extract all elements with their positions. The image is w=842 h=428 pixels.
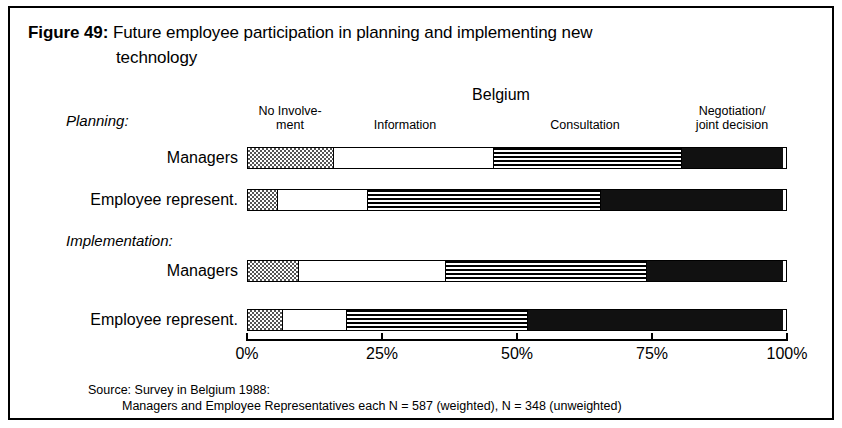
x-axis-tick-label-100%: 100% — [752, 345, 822, 363]
segment-no-involvement — [248, 261, 299, 281]
segment-negotiation — [681, 148, 783, 168]
row-label-implementation-managers: Managers — [8, 262, 238, 280]
segment-consultation — [367, 190, 601, 210]
figure-frame: Figure 49: Future employee participation… — [8, 6, 834, 420]
x-axis-tick-label-50%: 50% — [482, 345, 552, 363]
source-note-line-1: Source: Survey in Belgium 1988: — [88, 382, 622, 398]
stacked-bar-0 — [247, 147, 787, 169]
x-axis-tick-50% — [516, 333, 518, 341]
segment-information — [277, 190, 368, 210]
row-label-implementation-employee-represent: Employee represent. — [8, 311, 238, 329]
x-axis-tick-label-25%: 25% — [347, 345, 417, 363]
segment-negotiation — [527, 310, 783, 330]
x-axis-tick-label-75%: 75% — [617, 345, 687, 363]
row-label-planning-managers: Managers — [8, 149, 238, 167]
segment-information — [298, 261, 446, 281]
source-note-line-2: Managers and Employee Representatives ea… — [88, 398, 622, 414]
group-label-planning: Planning: — [66, 112, 129, 129]
group-label-implementation: Implementation: — [66, 232, 173, 249]
x-axis-tick-75% — [651, 333, 653, 341]
x-axis-tick-label-0%: 0% — [212, 345, 282, 363]
segment-negotiation — [646, 261, 783, 281]
x-axis-tick-0% — [246, 333, 248, 341]
segment-information — [333, 148, 494, 168]
segment-consultation — [493, 148, 681, 168]
source-note: Source: Survey in Belgium 1988: Managers… — [88, 382, 622, 414]
segment-no-involvement — [248, 190, 278, 210]
stacked-bar-1 — [247, 189, 787, 211]
x-axis-tick-25% — [381, 333, 383, 341]
chart-plot-area: Planning: Managers Employee represent. I… — [10, 8, 836, 422]
segment-no-involvement — [248, 310, 283, 330]
segment-no-involvement — [248, 148, 334, 168]
segment-information — [282, 310, 347, 330]
x-axis-tick-100% — [786, 333, 788, 341]
segment-negotiation — [600, 190, 783, 210]
segment-consultation — [346, 310, 529, 330]
stacked-bar-3 — [247, 309, 787, 331]
segment-consultation — [445, 261, 647, 281]
stacked-bar-2 — [247, 260, 787, 282]
row-label-planning-employee-represent: Employee represent. — [8, 191, 238, 209]
